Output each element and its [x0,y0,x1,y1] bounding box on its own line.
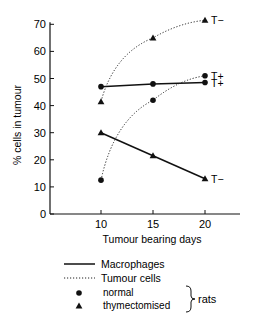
y-tick-label: 50 [34,73,46,85]
x-tick-label: 15 [147,218,159,230]
circle-marker [202,80,208,86]
end-label: T− [211,173,224,185]
end-label: T− [211,14,224,26]
circle-marker [202,73,208,79]
series-group: T+T−T+T− [98,14,224,185]
y-tick-label: 20 [34,154,46,166]
circle-marker [150,97,156,103]
y-tick-label: 10 [34,181,46,193]
y-tick-label: 40 [34,100,46,112]
legend-label: thymectomised [103,300,170,311]
x-tick-label: 20 [199,218,211,230]
circle-marker [150,81,156,87]
circle-marker [76,290,82,296]
dotted-line [101,76,205,180]
triangle-marker [98,98,105,104]
brace-icon [186,286,195,312]
axes: 010203040506070101520 [34,18,240,230]
legend-group-label: rats [198,293,217,305]
legend: MacrophagesTumour cellsnormalthymectomis… [64,258,217,312]
triangle-marker [150,34,157,40]
series-2: T+ [98,70,223,183]
y-tick-label: 30 [34,127,46,139]
legend-label: normal [103,287,134,298]
y-tick-label: 70 [34,18,46,30]
dotted-line [101,20,205,101]
circle-marker [98,84,104,90]
line-chart: 010203040506070101520 T+T−T+T− Tumour be… [0,0,254,331]
y-tick-label: 0 [40,208,46,220]
y-axis-label: % cells in tumour [11,85,23,165]
end-label: T+ [211,70,224,82]
x-axis-label: Tumour bearing days [103,233,202,245]
triangle-marker [76,303,83,309]
legend-label: Macrophages [101,258,165,270]
circle-marker [98,177,104,183]
triangle-marker [202,17,209,23]
series-3: T− [98,14,224,104]
triangle-marker [98,129,105,135]
legend-label: Tumour cells [101,272,161,284]
y-tick-label: 60 [34,45,46,57]
x-tick-label: 10 [95,218,107,230]
